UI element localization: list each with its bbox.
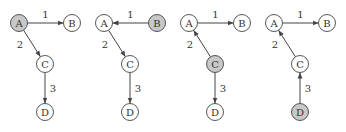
node-label: B (68, 18, 75, 29)
edge-C-A (194, 30, 211, 57)
edge-C-A (279, 30, 296, 57)
node-label: C (296, 59, 304, 70)
edge-weight-label: 2 (272, 39, 278, 50)
edge-A-C (109, 30, 126, 57)
node-a: A (181, 15, 198, 32)
panel-4: 123ABCD (266, 9, 336, 121)
node-b: B (64, 15, 81, 32)
node-label: A (14, 18, 23, 29)
node-label: A (99, 18, 108, 29)
node-d: D (207, 104, 224, 121)
node-label: B (153, 18, 160, 29)
node-c: C (122, 56, 139, 73)
edge-weight-label: 2 (187, 39, 193, 50)
edge-weight-label: 2 (17, 39, 23, 50)
node-label: D (41, 107, 49, 118)
edge-weight-label: 3 (135, 83, 141, 94)
node-label: A (184, 18, 193, 29)
node-a: A (266, 15, 283, 32)
node-label: C (126, 59, 134, 70)
tree-rooting-diagram: 123ABCD123ABCD123ABCD123ABCD (0, 0, 346, 132)
node-label: D (126, 107, 134, 118)
node-b-root: B (149, 15, 166, 32)
diagram-svg: 123ABCD123ABCD123ABCD123ABCD (0, 0, 346, 132)
node-c: C (37, 56, 54, 73)
panel-2: 123ABCD (96, 9, 166, 121)
node-label: A (269, 18, 278, 29)
edge-weight-label: 1 (127, 9, 133, 20)
panel-1: 123ABCD (11, 9, 81, 121)
node-a: A (96, 15, 113, 32)
node-d-root: D (292, 104, 309, 121)
edge-weight-label: 2 (102, 39, 108, 50)
node-b: B (234, 15, 251, 32)
panel-3: 123ABCD (181, 9, 251, 121)
edge-weight-label: 1 (212, 9, 218, 20)
node-label: D (211, 107, 219, 118)
edge-weight-label: 1 (297, 9, 303, 20)
edge-weight-label: 3 (50, 83, 56, 94)
edge-weight-label: 3 (305, 83, 311, 94)
node-c: C (292, 56, 309, 73)
node-c-root: C (207, 56, 224, 73)
edge-A-C (24, 30, 41, 57)
node-label: B (238, 18, 245, 29)
edge-weight-label: 3 (220, 83, 226, 94)
node-d: D (37, 104, 54, 121)
node-label: C (211, 59, 219, 70)
node-a-root: A (11, 15, 28, 32)
node-label: D (296, 107, 304, 118)
node-label: B (323, 18, 330, 29)
node-d: D (122, 104, 139, 121)
node-label: C (41, 59, 49, 70)
edge-weight-label: 1 (42, 9, 48, 20)
node-b: B (319, 15, 336, 32)
